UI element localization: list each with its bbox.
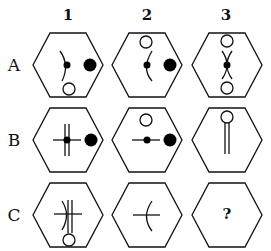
- white-circle: [63, 234, 75, 246]
- cell-a1: [33, 33, 103, 97]
- cell-b1: [33, 108, 103, 172]
- small-black-dot: [64, 137, 71, 144]
- cell-c1: [33, 183, 103, 247]
- white-circle: [221, 35, 233, 47]
- white-circle: [221, 111, 233, 123]
- large-black-dot: [164, 134, 177, 147]
- small-black-dot: [144, 137, 151, 144]
- cell-c2: [112, 183, 182, 247]
- cell-b3: [192, 108, 262, 172]
- small-black-dot: [224, 62, 231, 69]
- arc-curve: [62, 201, 67, 230]
- large-black-dot: [84, 59, 97, 72]
- white-circle: [221, 82, 233, 94]
- arc-curve: [147, 201, 153, 231]
- large-black-dot: [164, 59, 177, 72]
- large-black-dot: [85, 134, 98, 147]
- white-circle: [140, 36, 152, 48]
- cell-b2: [112, 108, 182, 172]
- cell-a3: [192, 33, 262, 97]
- question-mark: ?: [217, 205, 237, 223]
- small-black-dot: [64, 62, 71, 69]
- white-circle: [63, 83, 75, 95]
- small-black-dot: [144, 62, 151, 69]
- white-circle: [140, 114, 152, 126]
- cell-a2: [112, 33, 182, 97]
